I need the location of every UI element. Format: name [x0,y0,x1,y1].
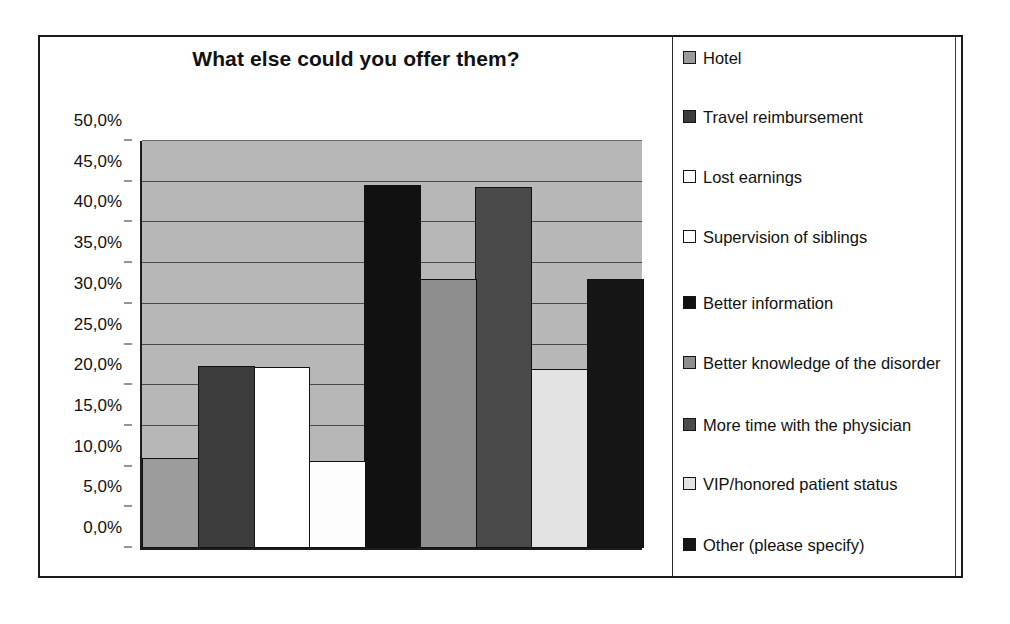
bar [253,367,310,548]
legend-swatch-icon [683,477,696,490]
legend-swatch-icon [683,51,696,64]
bar [142,458,199,548]
legend-item[interactable]: Other (please specify) [683,535,951,555]
legend-item[interactable]: Travel reimbursement [683,107,951,127]
y-axis-tick-mark [124,343,132,344]
legend-swatch-icon [683,110,696,123]
y-axis-tick-label: 30,0% [74,274,122,294]
y-axis-tick-label: 25,0% [74,315,122,335]
bar [475,187,532,548]
y-axis: 50,0%45,0%40,0%35,0%30,0%25,0%20,0%15,0%… [52,141,132,548]
legend-swatch-icon [683,538,696,551]
bar-series [142,141,642,548]
legend-item-label: Travel reimbursement [703,107,863,127]
legend-swatch-icon [683,356,696,369]
legend-item[interactable]: Lost earnings [683,167,951,187]
legend-item[interactable]: VIP/honored patient status [683,474,951,494]
legend-item-label: Hotel [703,48,742,68]
legend-item[interactable]: Supervision of siblings [683,227,951,247]
chart-title: What else could you offer them? [60,47,652,71]
plot-legend-divider [672,36,673,577]
chart-legend: HotelTravel reimbursementLost earningsSu… [683,40,951,570]
y-axis-tick-label: 50,0% [74,111,122,131]
legend-swatch-icon [683,418,696,431]
y-axis-tick-label: 35,0% [74,233,122,253]
y-axis-tick-mark [124,221,132,222]
legend-item-label: Better knowledge of the disorder [703,353,941,373]
y-axis-tick-mark [124,262,132,263]
y-axis-tick-label: 10,0% [74,437,122,457]
legend-item[interactable]: More time with the physician [683,415,951,435]
bar [587,279,644,548]
legend-swatch-icon [683,170,696,183]
y-axis-tick-label: 45,0% [74,152,122,172]
y-axis-tick-label: 20,0% [74,355,122,375]
bar [531,369,588,548]
legend-item-label: Lost earnings [703,167,802,187]
y-axis-tick-label: 5,0% [83,477,122,497]
bar [364,185,421,548]
legend-item-label: Other (please specify) [703,535,864,555]
legend-item-label: VIP/honored patient status [703,474,897,494]
y-axis-tick-mark [124,302,132,303]
y-axis-tick-mark [124,465,132,466]
legend-swatch-icon [683,230,696,243]
frame-inner-line [955,37,956,576]
legend-item-label: Supervision of siblings [703,227,867,247]
y-axis-tick-mark [124,506,132,507]
y-axis-tick-mark [124,180,132,181]
legend-item-label: Better information [703,293,833,313]
plot-area [140,141,642,550]
legend-item[interactable]: Better information [683,293,951,313]
y-axis-tick-label: 15,0% [74,396,122,416]
y-axis-tick-mark [124,140,132,141]
legend-swatch-icon [683,296,696,309]
legend-item-label: More time with the physician [703,415,911,435]
bar [420,279,477,548]
legend-item[interactable]: Better knowledge of the disorder [683,353,951,373]
bar [309,461,366,548]
y-axis-tick-mark [124,384,132,385]
legend-item[interactable]: Hotel [683,48,951,68]
bar [198,366,255,548]
y-axis-tick-label: 40,0% [74,192,122,212]
y-axis-tick-mark [124,424,132,425]
y-axis-tick-label: 0,0% [83,518,122,538]
y-axis-tick-mark [124,547,132,548]
